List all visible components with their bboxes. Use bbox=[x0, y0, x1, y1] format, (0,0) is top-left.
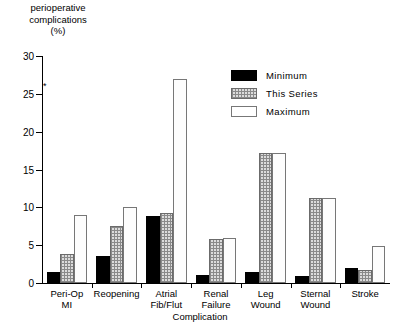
legend-label-maximum: Maximum bbox=[266, 106, 310, 117]
legend-label-minimum: Minimum bbox=[266, 70, 307, 81]
y-tick-label-25: 25 bbox=[23, 88, 34, 99]
bar-group bbox=[42, 56, 92, 283]
bar-series bbox=[358, 270, 372, 283]
legend-swatch-this-series bbox=[231, 88, 257, 99]
bar-max bbox=[322, 198, 336, 283]
bar-series bbox=[309, 198, 323, 283]
y-tick-label-30: 30 bbox=[23, 51, 34, 62]
y-tick-label-20: 20 bbox=[23, 126, 34, 137]
y-tick-label-15: 15 bbox=[23, 164, 34, 175]
bar-series bbox=[60, 254, 74, 283]
bar-series bbox=[209, 239, 223, 283]
bar-min bbox=[96, 256, 110, 283]
x-axis-title: Complication bbox=[0, 311, 400, 322]
bar-max bbox=[272, 153, 286, 283]
legend-item-maximum: Maximum bbox=[231, 102, 318, 120]
bar-min bbox=[345, 268, 359, 283]
y-tick-label-5: 5 bbox=[28, 240, 34, 251]
bar-max bbox=[173, 79, 187, 283]
bar-group bbox=[340, 56, 390, 283]
y-tick-label-10: 10 bbox=[23, 202, 34, 213]
legend-item-minimum: Minimum bbox=[231, 66, 318, 84]
legend-label-this-series: This Series bbox=[266, 88, 318, 99]
legend-swatch-minimum bbox=[231, 70, 257, 81]
bar-min bbox=[47, 272, 61, 283]
y-tick bbox=[36, 283, 42, 284]
y-tick-label-0: 0 bbox=[28, 278, 34, 289]
x-tick-label-line: Wound bbox=[281, 299, 351, 310]
y-axis-title-line-3: (%) bbox=[2, 25, 114, 37]
bar-series bbox=[160, 213, 174, 283]
x-tick-label: Stroke bbox=[330, 288, 400, 299]
x-tick-label-line: MI bbox=[32, 299, 102, 310]
bar-max bbox=[372, 246, 386, 283]
bar-max bbox=[223, 238, 237, 283]
bar-min bbox=[146, 216, 160, 283]
bar-min bbox=[245, 272, 259, 283]
legend-item-this-series: This Series bbox=[231, 84, 318, 102]
x-axis-line bbox=[42, 283, 390, 284]
bar-max bbox=[74, 215, 88, 283]
plot-area: 051015202530* bbox=[42, 56, 390, 283]
bar-group bbox=[92, 56, 142, 283]
bar-min bbox=[295, 276, 309, 283]
y-axis-title-line-2: complications bbox=[2, 14, 114, 26]
x-tick-label-line: Stroke bbox=[330, 288, 400, 299]
y-axis-title: perioperative complications (%) bbox=[2, 2, 114, 37]
legend: Minimum This Series Maximum bbox=[231, 66, 318, 120]
chart-root: perioperative complications (%) 05101520… bbox=[0, 0, 400, 329]
legend-swatch-maximum bbox=[231, 106, 257, 117]
bar-max bbox=[123, 207, 137, 283]
bar-series bbox=[259, 153, 273, 283]
bar-series bbox=[110, 226, 124, 283]
bar-group bbox=[141, 56, 191, 283]
bar-min bbox=[196, 275, 210, 283]
y-axis-title-line-1: perioperative bbox=[2, 2, 114, 14]
